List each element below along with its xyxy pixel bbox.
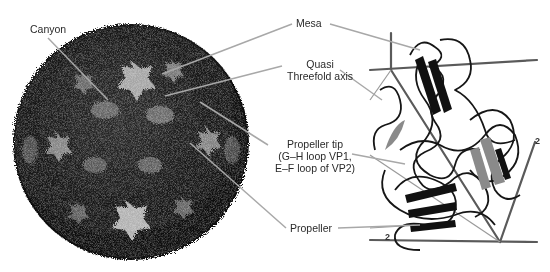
figure-canvas: [0, 0, 550, 272]
label-twofold-axis-bottom: 2: [385, 232, 390, 242]
label-quasi-line2: Threefold axis: [275, 70, 365, 82]
label-mesa: Mesa: [296, 17, 322, 29]
label-propeller-tip-line3: E–F loop of VP2): [270, 162, 360, 174]
protomer-ribbon-diagram: [370, 33, 537, 250]
label-canyon: Canyon: [30, 23, 66, 35]
label-propeller: Propeller: [290, 222, 332, 234]
label-propeller-tip-line1: Propeller tip: [270, 138, 360, 150]
capsid-sphere: [13, 24, 249, 260]
label-propeller-tip-line2: (G–H loop VP1,: [270, 150, 360, 162]
label-twofold-axis-right: 2: [535, 136, 540, 146]
label-quasi-threefold-axis: Quasi Threefold axis: [275, 58, 365, 82]
label-quasi-line1: Quasi: [275, 58, 365, 70]
label-propeller-tip: Propeller tip (G–H loop VP1, E–F loop of…: [270, 138, 360, 174]
